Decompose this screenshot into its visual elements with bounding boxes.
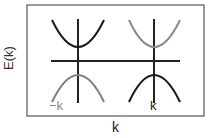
band-diagram [0, 0, 213, 138]
x-axis-label: k [112, 120, 119, 134]
right-valley-label: k [150, 99, 157, 112]
left-valley-label: −k [49, 99, 63, 112]
y-axis-label: E(k) [2, 46, 15, 70]
